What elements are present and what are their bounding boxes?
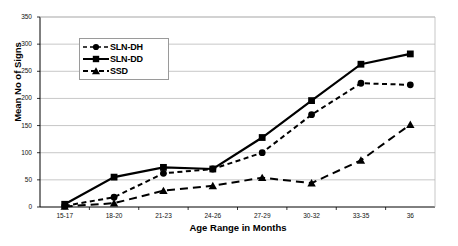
circle-marker — [308, 111, 315, 118]
square-marker — [358, 61, 365, 68]
legend-label-0: SLN-DH — [110, 42, 143, 52]
chart-container: Mean No of Signs Age Range in Months 050… — [0, 0, 458, 246]
legend-label-1: SLN-DD — [110, 54, 143, 64]
circle-marker — [259, 149, 266, 156]
square-marker — [259, 134, 266, 141]
triangle-marker-icon — [83, 65, 109, 77]
square-marker — [160, 164, 167, 171]
chart-legend: SLN-DH SLN-DD SSD — [79, 38, 169, 80]
square-marker — [111, 174, 118, 181]
circle-marker-icon — [83, 41, 109, 53]
series-line — [65, 124, 411, 206]
plot-area — [0, 0, 458, 246]
legend-label-2: SSD — [110, 66, 128, 76]
triangle-marker — [406, 120, 414, 127]
legend-item-0: SLN-DH — [83, 41, 143, 53]
circle-marker — [160, 170, 167, 177]
circle-marker — [358, 80, 365, 87]
circle-marker — [407, 81, 414, 88]
square-marker — [407, 51, 414, 58]
square-marker — [308, 97, 315, 104]
square-marker — [209, 166, 216, 173]
legend-item-2: SSD — [83, 65, 128, 77]
series-line — [65, 83, 411, 206]
square-marker-icon — [83, 53, 109, 65]
triangle-marker — [357, 156, 365, 163]
triangle-marker — [159, 187, 167, 194]
legend-item-1: SLN-DD — [83, 53, 143, 65]
